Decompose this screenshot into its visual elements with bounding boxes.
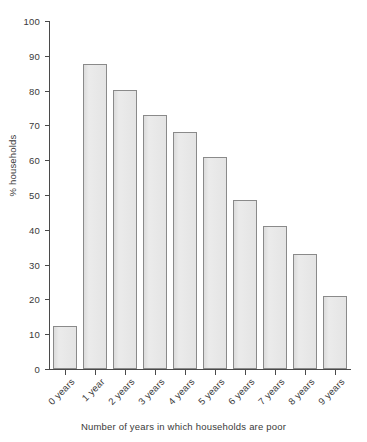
bar-chart: % households 0102030405060708090100 0 ye…	[0, 0, 367, 442]
y-axis-tick-mark	[45, 299, 50, 300]
y-axis-tick-label: 10	[14, 329, 40, 340]
x-axis-tick-mark	[65, 370, 66, 375]
bar	[113, 90, 137, 369]
y-axis-tick-mark	[45, 334, 50, 335]
y-axis-tick-label: 60	[14, 155, 40, 166]
bar	[143, 115, 167, 369]
y-axis-tick-label: 100	[14, 16, 40, 27]
y-axis-tick-mark	[45, 195, 50, 196]
plot-area	[50, 21, 350, 369]
bar	[233, 200, 257, 369]
y-axis-tick-label: 70	[14, 120, 40, 131]
y-axis-tick-mark	[45, 160, 50, 161]
x-axis-tick-mark	[215, 370, 216, 375]
y-axis-tick-label: 80	[14, 85, 40, 96]
x-axis-tick-mark	[305, 370, 306, 375]
y-axis-tick-labels: 0102030405060708090100	[14, 0, 40, 442]
y-axis-tick-mark	[45, 21, 50, 22]
y-axis-tick-label: 0	[14, 364, 40, 375]
x-axis-title: Number of years in which households are …	[0, 421, 367, 432]
y-axis-tick-label: 90	[14, 50, 40, 61]
y-axis-tick-label: 30	[14, 259, 40, 270]
x-axis-tick-mark	[245, 370, 246, 375]
y-axis-tick-mark	[45, 369, 50, 370]
y-axis-tick-mark	[45, 56, 50, 57]
bar	[323, 296, 347, 369]
y-axis-tick-mark	[45, 265, 50, 266]
bar	[53, 326, 77, 369]
y-axis-tick-label: 50	[14, 190, 40, 201]
bar	[83, 64, 107, 369]
x-axis-tick-mark	[125, 370, 126, 375]
y-axis-tick-mark	[45, 125, 50, 126]
x-axis-tick-mark	[185, 370, 186, 375]
x-axis-tick-mark	[335, 370, 336, 375]
y-axis-tick-mark	[45, 230, 50, 231]
x-axis-tick-mark	[95, 370, 96, 375]
bar	[263, 226, 287, 369]
bar	[173, 132, 197, 369]
y-axis-tick-label: 20	[14, 294, 40, 305]
bar	[293, 254, 317, 369]
y-axis-tick-mark	[45, 91, 50, 92]
bar	[203, 157, 227, 369]
x-axis-tick-mark	[275, 370, 276, 375]
y-axis-tick-label: 40	[14, 224, 40, 235]
x-axis-tick-labels: 0 years1 year2 years3 years4 years5 year…	[50, 376, 360, 421]
x-axis-tick-mark	[155, 370, 156, 375]
